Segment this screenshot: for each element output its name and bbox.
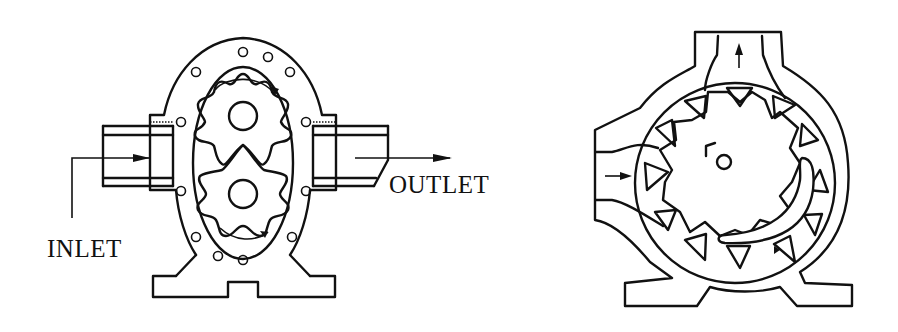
pump-feet xyxy=(153,276,335,297)
rotor-shaft xyxy=(717,155,731,169)
outlet-arrowhead xyxy=(735,43,743,55)
rotation-arrow xyxy=(706,143,715,156)
inlet-flow-arrow xyxy=(72,158,150,218)
pump-diagram: INLET OUTLET xyxy=(0,0,898,332)
lower-gear xyxy=(197,145,288,236)
outlet-label: OUTLET xyxy=(389,171,489,198)
inlet-label: INLET xyxy=(47,235,122,262)
external-gear-pump: INLET OUTLET xyxy=(47,38,489,297)
internal-gear-pump xyxy=(595,32,852,306)
inlet-arrowhead xyxy=(133,154,150,162)
inlet-arrowhead xyxy=(620,172,632,180)
outlet-pipe xyxy=(313,122,388,190)
outlet-arrowhead xyxy=(433,154,452,162)
inlet-port-wall-top xyxy=(596,145,658,152)
outlet-port-wall-left xyxy=(705,36,718,90)
upper-gear xyxy=(195,74,292,165)
lower-rotation-arrow xyxy=(220,228,268,239)
